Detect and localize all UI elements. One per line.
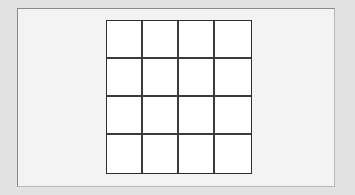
grid-cell-r3-c1[interactable] xyxy=(107,97,143,135)
grid-cell-r4-c4[interactable] xyxy=(215,135,251,173)
grid-cell-r3-c4[interactable] xyxy=(215,97,251,135)
grid-cell-r1-c3[interactable] xyxy=(179,21,215,59)
grid-cell-r4-c1[interactable] xyxy=(107,135,143,173)
grid-cell-r2-c4[interactable] xyxy=(215,59,251,97)
grid-cell-r3-c3[interactable] xyxy=(179,97,215,135)
grid-cell-r1-c1[interactable] xyxy=(107,21,143,59)
content-panel xyxy=(17,8,335,187)
grid-cell-r1-c2[interactable] xyxy=(143,21,179,59)
grid-cell-r4-c2[interactable] xyxy=(143,135,179,173)
grid-cell-r2-c3[interactable] xyxy=(179,59,215,97)
grid-cell-r1-c4[interactable] xyxy=(215,21,251,59)
grid-cell-r2-c1[interactable] xyxy=(107,59,143,97)
grid-4x4 xyxy=(106,20,252,174)
grid-cell-r3-c2[interactable] xyxy=(143,97,179,135)
grid-cell-r2-c2[interactable] xyxy=(143,59,179,97)
grid-cell-r4-c3[interactable] xyxy=(179,135,215,173)
